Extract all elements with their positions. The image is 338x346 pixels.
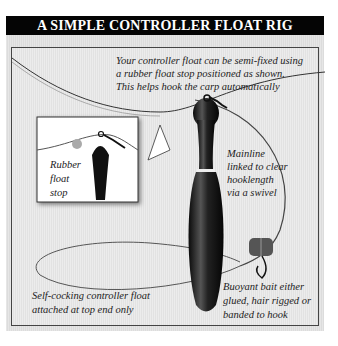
buoyant-bait-icon — [249, 238, 273, 278]
controller-float-icon — [189, 95, 228, 312]
inset-annotation: Rubber float stop — [50, 158, 81, 200]
mainline-annotation: Mainline linked to clear hooklength via … — [227, 147, 288, 199]
bait-annotation: Buoyant bait either glued, hair rigged o… — [223, 280, 311, 322]
float-annotation: Self-cocking controller float attached a… — [32, 289, 150, 317]
top-annotation: Your controller float can be semi-fixed … — [116, 54, 303, 93]
